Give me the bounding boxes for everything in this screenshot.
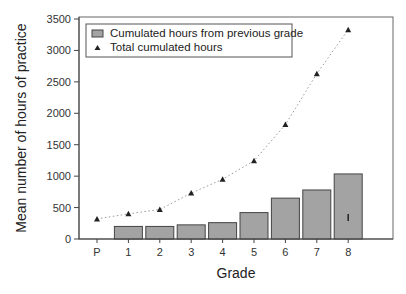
chart: 0500100015002000250030003500 P12345678 C… [0, 0, 406, 294]
triangle-marker [220, 176, 226, 182]
x-axis-title: Grade [217, 265, 256, 281]
bar-grade-3 [177, 225, 205, 239]
y-tick-label: 3000 [47, 44, 71, 56]
bar-grade-2 [146, 226, 174, 239]
triangle-marker [345, 27, 351, 33]
bar-grade-6 [271, 198, 299, 239]
bar-series [114, 174, 362, 239]
triangle-marker [94, 216, 100, 222]
y-tick-label: 500 [53, 202, 71, 214]
x-tick-label: 5 [251, 246, 257, 258]
bar-grade-1 [114, 226, 142, 239]
x-tick-label: 7 [314, 246, 320, 258]
y-tick-label: 1000 [47, 170, 71, 182]
legend-bar-swatch [92, 30, 103, 37]
bar-grade-4 [209, 223, 237, 239]
legend-label-line: Total cumulated hours [110, 41, 223, 53]
triangle-marker [188, 190, 194, 196]
y-tick-label: 1500 [47, 139, 71, 151]
x-axis: P12345678 [79, 239, 393, 258]
x-tick-label: 8 [345, 246, 351, 258]
bar-grade-7 [303, 190, 331, 239]
x-tick-label: 6 [282, 246, 288, 258]
triangle-marker [125, 211, 131, 217]
bar-grade-8 [334, 174, 362, 239]
y-axis-title: Mean number of hours of practice [13, 23, 29, 233]
legend: Cumulated hours from previous gradeTotal… [86, 24, 303, 57]
y-tick-label: 2500 [47, 76, 71, 88]
x-tick-label: 2 [157, 246, 163, 258]
x-tick-label: 1 [125, 246, 131, 258]
x-tick-label: 3 [188, 246, 194, 258]
legend-label-bars: Cumulated hours from previous grade [110, 27, 303, 39]
bar-grade-5 [240, 213, 268, 239]
x-tick-label: P [93, 246, 100, 258]
triangle-marker [282, 122, 288, 128]
x-tick-label: 4 [220, 246, 226, 258]
y-tick-label: 0 [65, 233, 71, 245]
y-tick-label: 2000 [47, 107, 71, 119]
y-tick-label: 3500 [47, 13, 71, 25]
triangle-marker [157, 206, 163, 212]
y-axis: 0500100015002000250030003500 [47, 13, 79, 245]
